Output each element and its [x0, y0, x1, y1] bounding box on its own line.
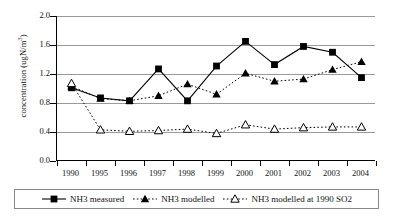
data-point [328, 123, 336, 130]
y-tick-mark [50, 161, 56, 162]
legend-label: NH3 modelled [161, 194, 214, 204]
data-point [184, 97, 191, 104]
x-tick-mark [318, 161, 319, 166]
data-point [271, 61, 278, 68]
data-point [328, 65, 336, 72]
data-point [154, 126, 162, 133]
legend-item: NH3 modelled at 1990 SO2 [218, 194, 356, 204]
x-tick-label: 1996 [113, 168, 145, 178]
x-tick-mark [376, 161, 377, 166]
y-tick-label: 0.4 [20, 126, 50, 136]
data-point [329, 49, 336, 56]
x-tick-label: 2003 [316, 168, 348, 178]
x-tick-label: 2000 [229, 168, 261, 178]
x-tick-label: 1995 [84, 168, 116, 178]
legend-swatch-filled-square-icon [41, 194, 67, 204]
y-axis-title-close: ) [18, 34, 28, 37]
x-tick-mark [289, 161, 290, 166]
data-point [270, 125, 278, 132]
data-point [213, 63, 220, 70]
x-tick-label: 1998 [171, 168, 203, 178]
legend-swatch-filled-triangle-icon [132, 194, 158, 204]
y-tick-label: 0.8 [20, 97, 50, 107]
legend-item: NH3 measured [37, 194, 128, 204]
series-layer [57, 16, 376, 161]
y-tick-label: 1.2 [20, 68, 50, 78]
data-point [300, 43, 307, 50]
x-tick-mark [144, 161, 145, 166]
x-tick-mark [57, 161, 58, 166]
x-tick-label: 2002 [287, 168, 319, 178]
legend-swatch-open-triangle-icon [222, 194, 248, 204]
chart-legend: NH3 measuredNH3 modelledNH3 modelled at … [14, 189, 379, 209]
data-point [155, 66, 162, 73]
legend-label: NH3 modelled at 1990 SO2 [251, 194, 352, 204]
data-point [299, 75, 307, 82]
data-point [96, 126, 104, 133]
legend-item: NH3 modelled [128, 194, 218, 204]
data-point [357, 123, 365, 130]
data-point [241, 121, 249, 128]
data-point [183, 125, 191, 132]
plot-area [56, 16, 375, 161]
series-3 [67, 79, 365, 136]
legend-label: NH3 measured [70, 194, 124, 204]
x-tick-mark [260, 161, 261, 166]
x-tick-label: 1990 [55, 168, 87, 178]
data-point [242, 38, 249, 45]
y-tick-label: 1.6 [20, 39, 50, 49]
data-point [358, 74, 365, 81]
x-tick-label: 1999 [200, 168, 232, 178]
y-tick-label: 2.0 [20, 10, 50, 20]
x-tick-mark [173, 161, 174, 166]
x-tick-mark [347, 161, 348, 166]
x-tick-mark [86, 161, 87, 166]
x-tick-label: 2001 [258, 168, 290, 178]
x-tick-mark [202, 161, 203, 166]
data-point [357, 57, 365, 64]
x-tick-label: 1997 [142, 168, 174, 178]
data-point [183, 80, 191, 87]
x-tick-mark [115, 161, 116, 166]
y-tick-label: 0.0 [20, 155, 50, 165]
x-tick-mark [231, 161, 232, 166]
data-point [67, 79, 75, 86]
x-tick-label: 2004 [345, 168, 377, 178]
data-point [241, 69, 249, 76]
chart-container: concentration (ugN/m3) 2.01.61.20.80.40.… [0, 0, 397, 219]
data-point [154, 92, 162, 99]
